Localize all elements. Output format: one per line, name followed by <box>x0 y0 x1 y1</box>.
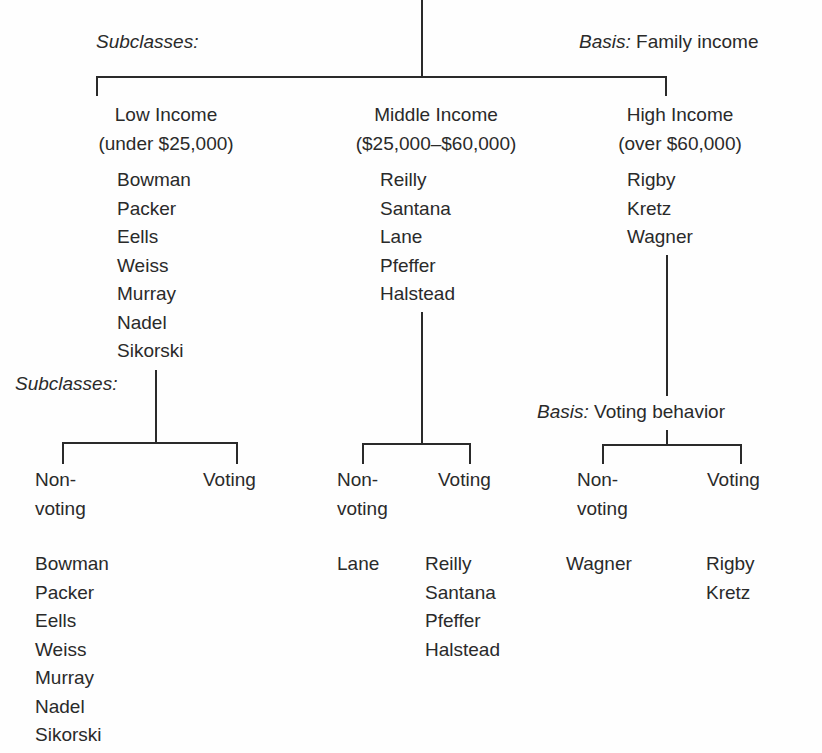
member-name: Murray <box>117 280 191 309</box>
basis-label-top: Basis: Family income <box>579 28 759 57</box>
bracket-tick <box>602 444 604 464</box>
middle-voting-heading: Voting <box>438 466 491 495</box>
high-income-members: Rigby Kretz Wagner <box>627 166 693 252</box>
class-range: (over $60,000) <box>618 130 742 159</box>
class-middle-income-heading: Middle Income ($25,000–$60,000) <box>356 101 517 158</box>
low-income-members: Bowman Packer Eells Weiss Murray Nadel S… <box>117 166 191 366</box>
class-range: (under $25,000) <box>98 130 233 159</box>
member-name: Reilly <box>380 166 455 195</box>
member-name: Kretz <box>706 579 755 608</box>
class-title: Middle Income <box>356 101 517 130</box>
bracket-tick <box>62 442 64 464</box>
member-name: Packer <box>117 195 191 224</box>
member-name: Sikorski <box>35 721 109 750</box>
class-low-income-heading: Low Income (under $25,000) <box>98 101 233 158</box>
class-title: High Income <box>618 101 742 130</box>
basis-value: Voting behavior <box>594 401 725 422</box>
member-name: Pfeffer <box>380 252 455 281</box>
bracket-tick <box>740 444 742 464</box>
member-name: Wagner <box>566 550 632 579</box>
high-voting-members: Rigby Kretz <box>706 550 755 607</box>
member-name: Bowman <box>35 550 109 579</box>
member-name: Pfeffer <box>425 607 500 636</box>
member-name: Santana <box>425 579 500 608</box>
bracket-tick <box>236 442 238 464</box>
member-name: Nadel <box>35 693 109 722</box>
subclasses-label-low: Subclasses: <box>15 370 117 399</box>
bracket-tick <box>469 443 471 464</box>
high-income-connector-upper <box>666 255 668 396</box>
member-name: Lane <box>337 550 379 579</box>
member-name: Lane <box>380 223 455 252</box>
subclasses-label-top: Subclasses: <box>96 28 198 57</box>
basis-prefix: Basis: <box>579 31 631 52</box>
middle-income-connector <box>421 312 423 444</box>
root-connector <box>421 0 423 78</box>
member-name: Eells <box>35 607 109 636</box>
member-name: Halstead <box>425 636 500 665</box>
member-name: Weiss <box>117 252 191 281</box>
basis-prefix: Basis: <box>537 401 589 422</box>
basis-label-voting: Basis: Voting behavior <box>537 398 725 427</box>
member-name: Sikorski <box>117 337 191 366</box>
member-name: Weiss <box>35 636 109 665</box>
middle-voting-members: Reilly Santana Pfeffer Halstead <box>425 550 500 664</box>
member-name: Wagner <box>627 223 693 252</box>
member-name: Halstead <box>380 280 455 309</box>
bracket-tick-low <box>96 76 98 96</box>
member-name: Murray <box>35 664 109 693</box>
low-income-connector <box>155 370 157 444</box>
class-range: ($25,000–$60,000) <box>356 130 517 159</box>
bracket-tick <box>362 443 364 464</box>
member-name: Rigby <box>706 550 755 579</box>
member-name: Reilly <box>425 550 500 579</box>
member-name: Kretz <box>627 195 693 224</box>
high-voting-heading: Voting <box>707 466 760 495</box>
class-title: Low Income <box>98 101 233 130</box>
basis-value: Family income <box>636 31 758 52</box>
low-voting-heading: Voting <box>203 466 256 495</box>
member-name: Santana <box>380 195 455 224</box>
high-nonvoting-members: Wagner <box>566 550 632 579</box>
member-name: Bowman <box>117 166 191 195</box>
member-name: Nadel <box>117 309 191 338</box>
classification-diagram: Subclasses: Basis: Family income Low Inc… <box>0 0 822 753</box>
member-name: Packer <box>35 579 109 608</box>
low-income-bracket <box>62 442 238 444</box>
middle-income-bracket <box>362 443 471 445</box>
middle-income-members: Reilly Santana Lane Pfeffer Halstead <box>380 166 455 309</box>
high-nonvoting-heading: Non- voting <box>577 466 628 523</box>
class-high-income-heading: High Income (over $60,000) <box>618 101 742 158</box>
level1-bracket <box>96 76 667 78</box>
low-nonvoting-heading: Non- voting <box>35 466 86 523</box>
high-income-bracket <box>602 444 742 446</box>
bracket-tick-high <box>665 76 667 96</box>
high-income-connector-lower <box>666 430 668 445</box>
low-nonvoting-members: Bowman Packer Eells Weiss Murray Nadel S… <box>35 550 109 750</box>
middle-nonvoting-heading: Non- voting <box>337 466 388 523</box>
middle-nonvoting-members: Lane <box>337 550 379 579</box>
member-name: Eells <box>117 223 191 252</box>
member-name: Rigby <box>627 166 693 195</box>
